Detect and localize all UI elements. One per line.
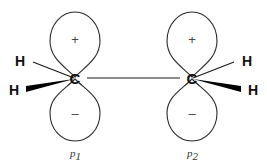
right-lower-lobe-sign: – xyxy=(188,106,196,121)
right-carbon-group: C + – H H p2 xyxy=(167,12,258,162)
left-upper-lobe-sign: + xyxy=(71,32,79,47)
left-orbital-name-subscript: 1 xyxy=(76,150,82,162)
left-orbital-name: p1 xyxy=(69,147,81,162)
left-upper-hydrogen-label: H xyxy=(15,53,25,69)
right-lower-hydrogen-label: H xyxy=(248,82,258,98)
left-lower-hydrogen-wedge xyxy=(26,79,74,92)
right-upper-hydrogen-label: H xyxy=(242,53,252,69)
left-carbon-group: C + – H H p1 xyxy=(9,12,100,162)
right-upper-lobe-sign: + xyxy=(188,32,196,47)
left-lower-hydrogen-label: H xyxy=(9,82,19,98)
diagram-canvas: C + – H H p1 C xyxy=(0,0,267,165)
orbital-diagram: C + – H H p1 C xyxy=(0,0,267,165)
right-orbital-name-subscript: 2 xyxy=(193,150,199,162)
right-orbital-name: p2 xyxy=(186,147,199,162)
right-lower-hydrogen-wedge xyxy=(193,79,241,92)
left-carbon-label: C xyxy=(70,70,81,87)
right-carbon-label: C xyxy=(187,70,198,87)
left-lower-lobe-sign: – xyxy=(71,106,79,121)
